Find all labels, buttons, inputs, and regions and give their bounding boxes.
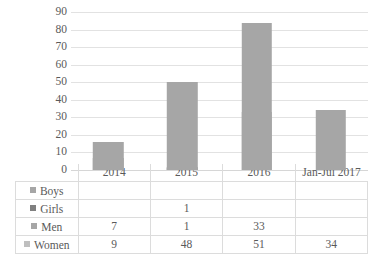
bar-group-2014 (71, 12, 145, 170)
plot-region: 0102030405060708090 (15, 12, 368, 170)
table-corner-cell (16, 164, 79, 182)
table-cell-boys-2014 (78, 182, 150, 200)
legend-swatch-icon (30, 187, 36, 193)
series-label-men: Men (16, 218, 79, 236)
y-tick-label-20: 20 (15, 129, 67, 141)
table-cell-women-jan-jul-2017: 34 (295, 236, 367, 254)
bar-segment-women-2016 (241, 23, 271, 170)
table-cell-men-2014: 7 (78, 218, 150, 236)
series-label-boys: Boys (16, 182, 79, 200)
series-label-girls: Girls (16, 200, 79, 218)
table-cell-women-2015: 48 (150, 236, 222, 254)
y-tick-label-30: 30 (15, 112, 67, 124)
table-cell-girls-2016 (223, 200, 295, 218)
bar-group-2015 (145, 12, 219, 170)
table-cell-men-2015: 1 (150, 218, 222, 236)
bar-series-group (71, 12, 368, 170)
series-name-text: Women (34, 238, 69, 250)
data-table-region: 201420152016Jan-Jul 2017BoysGirls1Men713… (15, 164, 368, 254)
data-table-body: 201420152016Jan-Jul 2017BoysGirls1Men713… (16, 164, 368, 254)
series-label-women: Women (16, 236, 79, 254)
table-row: Girls1 (16, 200, 368, 218)
y-axis-tick-labels: 0102030405060708090 (15, 12, 67, 170)
table-row: Boys (16, 182, 368, 200)
y-tick-label-40: 40 (15, 94, 67, 106)
y-tick-label-70: 70 (15, 41, 67, 53)
y-tick-label-10: 10 (15, 147, 67, 159)
y-tick-label-90: 90 (15, 6, 67, 18)
bar-segment-women-2015 (167, 82, 197, 170)
y-tick-label-60: 60 (15, 59, 67, 71)
stacked-column-chart-with-data-table: 0102030405060708090 201420152016Jan-Jul … (0, 0, 383, 265)
bar-segment-women-2014 (93, 142, 123, 170)
legend-swatch-icon (31, 223, 37, 229)
legend-swatch-icon (30, 205, 36, 211)
legend-swatch-icon (24, 241, 30, 247)
table-cell-girls-2015: 1 (150, 200, 222, 218)
plot-area (71, 12, 368, 170)
table-cell-women-2014: 9 (78, 236, 150, 254)
table-cell-boys-jan-jul-2017 (295, 182, 367, 200)
bar-segment-women-jan-jul-2017 (316, 110, 346, 170)
series-name-text: Girls (40, 202, 63, 214)
bar-group-jan-jul-2017 (294, 12, 368, 170)
bar-group-2016 (220, 12, 294, 170)
table-cell-men-2016: 33 (223, 218, 295, 236)
table-cell-girls-jan-jul-2017 (295, 200, 367, 218)
table-cell-boys-2015 (150, 182, 222, 200)
series-name-text: Men (41, 220, 62, 232)
table-cell-women-2016: 51 (223, 236, 295, 254)
series-name-text: Boys (40, 184, 64, 196)
y-tick-label-80: 80 (15, 24, 67, 36)
table-cell-boys-2016 (223, 182, 295, 200)
table-row: Men7133 (16, 218, 368, 236)
table-row: Women9485134 (16, 236, 368, 254)
table-cell-girls-2014 (78, 200, 150, 218)
data-table: 201420152016Jan-Jul 2017BoysGirls1Men713… (15, 164, 368, 254)
table-cell-men-jan-jul-2017 (295, 218, 367, 236)
y-tick-label-50: 50 (15, 76, 67, 88)
